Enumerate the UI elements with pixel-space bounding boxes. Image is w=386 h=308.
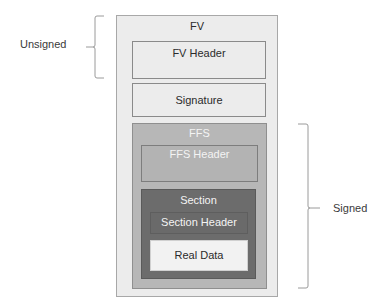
signed-brace-icon — [0, 0, 386, 308]
